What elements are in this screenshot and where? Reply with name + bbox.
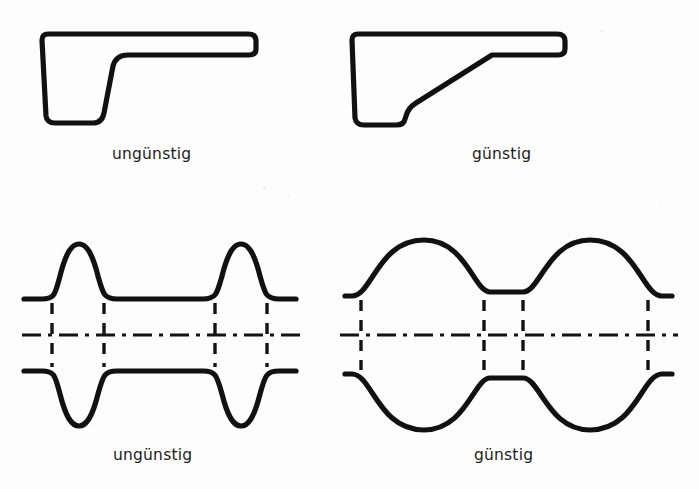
- figure-sheet: ungünstig günstig ungünstig günstig: [0, 0, 699, 489]
- caption-top-left: ungünstig: [112, 145, 191, 163]
- panel-top-right-bracket: [352, 34, 565, 125]
- shaft-wave-upper-profile: [345, 240, 672, 296]
- technical-drawing: [0, 0, 699, 489]
- caption-top-right: günstig: [472, 145, 531, 163]
- shaft-collar-lower-profile: [24, 371, 296, 426]
- caption-bottom-left: ungünstig: [113, 446, 192, 464]
- caption-bottom-right: günstig: [474, 446, 533, 464]
- panel-top-left-bracket: [42, 34, 256, 123]
- panel-bottom-right-shaft: [340, 240, 678, 430]
- bracket-abrupt-outline: [42, 34, 256, 123]
- shaft-collar-upper-profile: [24, 244, 296, 299]
- shaft-wave-lower-profile: [345, 374, 672, 430]
- bracket-tapered-outline: [352, 34, 565, 125]
- panel-bottom-left-shaft: [22, 244, 300, 426]
